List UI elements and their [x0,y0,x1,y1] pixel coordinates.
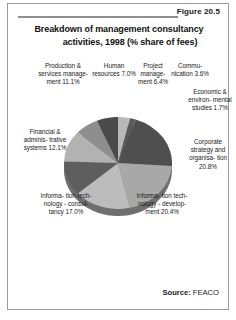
pie-label-financial-administrative-systems: Financial & adminis- trative systems 12.… [20,128,70,153]
pie-label-economic-environmental-studies: Economic & environ- mental studies 1.7% [188,88,232,113]
source-value: FEACO [193,288,219,297]
source-prefix: Source: [162,288,190,297]
pie-label-human-resources: Human resources 7.0% [92,62,136,78]
pie-label-corporate-strategy-organisation: Corporate strategy and organisa- tion 20… [184,138,232,171]
figure-rule [18,16,178,18]
plot-area: Production & services manage- ment 11.1%… [8,50,228,282]
chart-title: Breakdown of management consultancy acti… [18,23,220,49]
figure-number-row: Figure 20.5 [8,7,228,21]
pie-label-it-consultancy: Informa- tion tech- nology - consul- tan… [40,192,92,217]
figure-frame: Figure 20.5 Breakdown of management cons… [7,3,229,310]
pie-label-communication: Commu- nication 3.6% [168,62,212,78]
figure-number: Figure 20.5 [177,7,220,16]
pie-label-it-development: Informa- tion tech- nology - develop- me… [136,192,188,217]
pie-label-project-management: Project manage- ment 6.4% [133,62,173,87]
chart-title-line-1: Breakdown of management consultancy [34,24,203,34]
pie-label-production-services-management: Production & services manage- ment 11.1% [36,62,90,87]
source-note: Source: FEACO [162,288,219,297]
chart-title-line-2: activities, 1998 (% share of fees) [18,36,220,49]
